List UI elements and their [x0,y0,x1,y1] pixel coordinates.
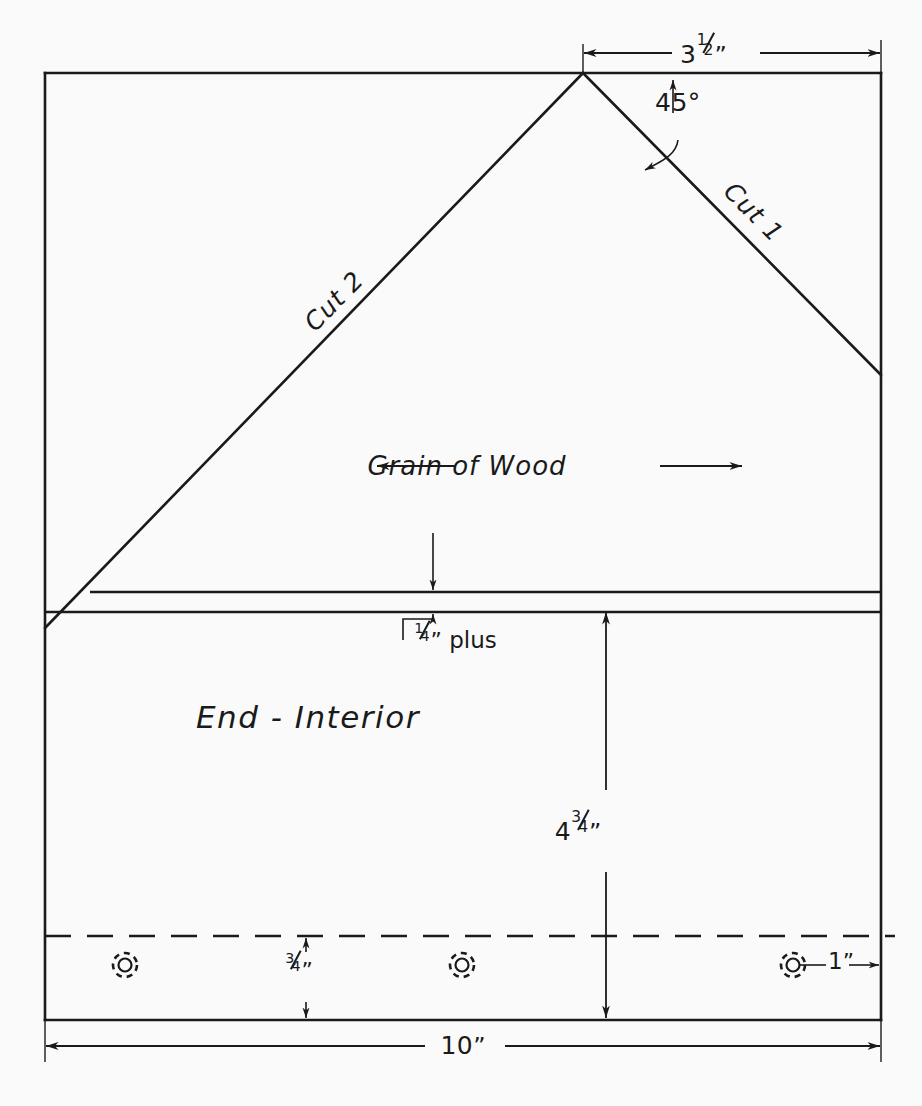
quarter-inch-band [45,592,881,612]
label-screw-offset: 34” [285,955,313,982]
label-band-thickness: 14” plus [414,625,497,652]
screw-hole-group [113,953,805,977]
cut-lines [45,73,881,628]
label-top-width: 312” [680,38,727,68]
label-part-name: End - Interior [196,702,420,733]
label-edge-offset: 1” [828,950,854,973]
drawing-canvas: 312” 45° Cut 1 Cut 2 Grain of Wood 14” p… [0,0,922,1106]
screw-hole-icon[interactable] [113,953,137,977]
technical-drawing-svg [0,0,922,1106]
label-apex-angle: 45° [655,90,701,115]
label-overall-width: 10” [440,1033,485,1059]
dimension-top-width [583,40,881,73]
cut-1-line [583,73,881,375]
cut-2-line [45,73,583,628]
label-interior-height: 434” [555,815,602,845]
label-grain-of-wood: Grain of Wood [367,453,566,479]
screw-hole-icon[interactable] [450,953,474,977]
